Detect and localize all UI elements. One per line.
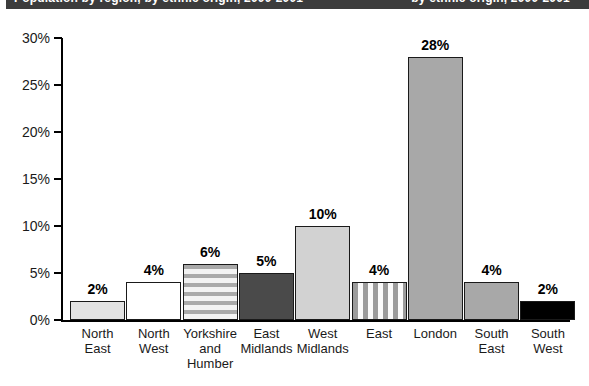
y-axis-tick-label: 15% <box>2 171 50 187</box>
y-axis-tick-label: 25% <box>2 77 50 93</box>
bar-group: 10% <box>295 38 350 320</box>
bar-group: 2% <box>70 38 125 320</box>
bar-group: 4% <box>352 38 407 320</box>
chart-title-right: by ethnic origin, 2000-2001 <box>411 0 570 5</box>
y-axis-tick-label: 5% <box>2 265 50 281</box>
category-label-line: Humber <box>177 356 243 371</box>
bar[interactable] <box>183 264 238 320</box>
bar-group: 2% <box>520 38 575 320</box>
bar-chart: 0%5%10%15%20%25%30% 2%4%6%5%10%4%28%4%2%… <box>0 12 589 386</box>
bar-value-label: 4% <box>120 262 187 278</box>
y-axis-tick <box>54 131 62 133</box>
y-axis-tick <box>54 178 62 180</box>
bar-value-label: 28% <box>402 37 469 53</box>
title-bar-endcap <box>584 0 589 9</box>
bar-group: 4% <box>126 38 181 320</box>
chart-title-bar: Population by region, by ethnic origin, … <box>6 0 584 9</box>
y-axis-tick <box>54 319 62 321</box>
y-axis-tick-label: 0% <box>2 312 50 328</box>
bar-value-label: 4% <box>346 262 413 278</box>
bar-group: 4% <box>464 38 519 320</box>
x-axis-line <box>61 320 570 322</box>
y-axis-tick-label: 30% <box>2 30 50 46</box>
bar[interactable] <box>520 301 575 320</box>
bar-group: 6% <box>183 38 238 320</box>
y-axis-tick-label: 10% <box>2 218 50 234</box>
y-axis-tick-label: 20% <box>2 124 50 140</box>
category-label-line: West <box>515 341 581 356</box>
bar-value-label: 2% <box>64 281 131 297</box>
bar-value-label: 2% <box>514 281 581 297</box>
bar[interactable] <box>295 226 350 320</box>
y-axis-tick-labels: 0%5%10%15%20%25%30% <box>0 12 50 386</box>
y-axis-tick <box>54 225 62 227</box>
bar-value-label: 5% <box>233 253 300 269</box>
bar-group: 28% <box>408 38 463 320</box>
bar[interactable] <box>126 282 181 320</box>
category-label-line: South <box>515 326 581 341</box>
bar[interactable] <box>408 57 463 320</box>
bar[interactable] <box>239 273 294 320</box>
plot-area: 2%4%6%5%10%4%28%4%2% <box>62 38 570 320</box>
chart-title-left: Population by region, by ethnic origin, … <box>14 0 303 5</box>
bar-value-label: 10% <box>289 206 356 222</box>
y-axis-tick <box>54 272 62 274</box>
bar[interactable] <box>352 282 407 320</box>
bar[interactable] <box>464 282 519 320</box>
y-axis-tick <box>54 37 62 39</box>
y-axis-tick <box>54 84 62 86</box>
bar[interactable] <box>70 301 125 320</box>
x-axis-category-label: SouthWest <box>515 326 581 356</box>
x-axis-category-labels: NorthEastNorthWestYorkshireandHumberEast… <box>62 326 570 386</box>
bar-group: 5% <box>239 38 294 320</box>
bar-value-label: 4% <box>458 262 525 278</box>
category-label-line: Midlands <box>290 341 356 356</box>
